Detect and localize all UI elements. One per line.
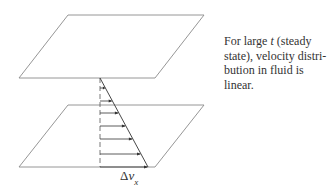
bottom-plate — [19, 105, 204, 167]
caption-line-1: For large t (steady — [224, 34, 332, 49]
velocity-arrows — [100, 86, 148, 168]
caption-line-3: bution in fluid is — [224, 63, 332, 78]
caption-line-2: state), velocity distri- — [224, 49, 332, 64]
delta-vx-label: Δvx — [120, 168, 138, 186]
plates-diagram — [0, 0, 335, 190]
top-plate — [19, 15, 204, 78]
caption: For large t (steady state), velocity dis… — [224, 34, 332, 92]
caption-line-4: linear. — [224, 78, 332, 93]
